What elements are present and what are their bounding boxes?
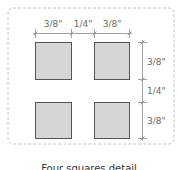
dim-label-h1: 3/8": [44, 19, 63, 29]
dim-label-v1: 3/8": [147, 57, 166, 67]
square-bottom-right: [95, 103, 130, 139]
dim-label-v2: 1/4": [147, 86, 166, 96]
dim-label-h2: 1/4": [74, 19, 93, 29]
square-top-left: [36, 43, 72, 80]
horizontal-dimension: [33, 29, 132, 38]
square-top-right: [95, 43, 130, 80]
four-squares-diagram: 3/8" 1/4" 3/8" 3/8" 1/4" 3/8" Four squar…: [0, 0, 178, 170]
dim-label-h3: 3/8": [103, 19, 122, 29]
square-bottom-left: [36, 103, 72, 139]
vertical-dimension: [138, 40, 147, 141]
dim-label-v3: 3/8": [147, 116, 166, 126]
diagram-caption: Four squares detail: [41, 163, 137, 170]
